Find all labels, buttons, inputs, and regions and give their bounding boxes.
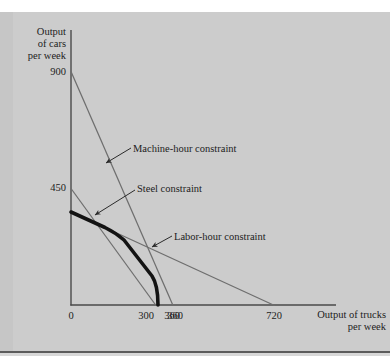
x-axis-title: Output of trucks per week (291, 309, 386, 333)
steel-leader (95, 190, 135, 215)
steel-constraint-label: Steel constraint (137, 183, 202, 195)
x-tick-label-300: 300 (135, 310, 157, 322)
x-tick-label-360: 360 (161, 310, 183, 322)
steel-constraint-line (71, 189, 156, 306)
x-tick-label-0: 0 (64, 310, 78, 322)
y-tick-label-900: 900 (32, 66, 66, 78)
y-tick-label-450: 450 (32, 182, 66, 194)
labor-hour-constraint-label: Labor-hour constraint (174, 231, 266, 243)
axis-lines (70, 30, 336, 306)
machine-hour-leader (106, 148, 131, 163)
annotation-leaders (95, 148, 172, 247)
figure-container: Output of cars per week 900 450 360 0 30… (0, 0, 390, 356)
x-tick-label-720: 720 (263, 310, 285, 322)
labor-hour-leader (152, 236, 172, 247)
y-axis-title: Output of cars per week (8, 26, 66, 61)
machine-hour-constraint-label: Machine-hour constraint (133, 143, 237, 155)
